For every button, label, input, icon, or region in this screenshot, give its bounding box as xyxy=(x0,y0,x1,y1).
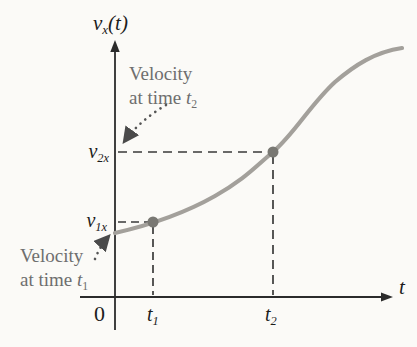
annotation-velocity-t1-var-sub: 1 xyxy=(82,280,88,293)
y-axis-title-base: v xyxy=(93,11,102,35)
y-axis-arrowhead-icon xyxy=(110,40,119,52)
leader-arrow-t1-icon xyxy=(95,236,109,259)
y-tick-v2x-sub: 2x xyxy=(97,151,109,165)
annotation-velocity-t1: Velocity at time t1 xyxy=(20,244,88,293)
annotation-velocity-t2-line1: Velocity xyxy=(129,63,192,84)
x-tick-t2-sub: 2 xyxy=(271,314,277,328)
x-tick-origin: 0 xyxy=(94,303,105,325)
x-axis-label-var: t xyxy=(399,275,405,299)
x-axis-label: t xyxy=(399,277,405,298)
data-point-t2 xyxy=(268,147,279,158)
x-axis-arrowhead-icon xyxy=(381,292,393,301)
y-tick-v2x: v2x xyxy=(76,141,109,161)
y-tick-v2x-base: v xyxy=(88,140,97,162)
x-tick-t1: t1 xyxy=(147,304,159,324)
y-tick-v1x: v1x xyxy=(74,210,107,230)
x-tick-t2: t2 xyxy=(265,304,277,324)
y-tick-v1x-base: v xyxy=(86,209,95,231)
annotation-velocity-t2-line2: at time xyxy=(129,87,186,108)
graph-plot-area xyxy=(0,0,417,347)
y-axis-title-suffix: (t) xyxy=(108,11,128,35)
y-tick-v1x-sub: 1x xyxy=(95,220,107,234)
annotation-velocity-t1-line2: at time xyxy=(20,269,77,290)
annotation-velocity-t1-line1: Velocity xyxy=(20,245,83,266)
y-axis-title: vx(t) xyxy=(93,13,128,34)
data-point-t1 xyxy=(148,217,159,228)
velocity-time-graph: vx(t) Velocity at time t2 Velocity at ti… xyxy=(0,0,417,347)
x-tick-t1-sub: 1 xyxy=(153,314,159,328)
annotation-velocity-t2-var-sub: 2 xyxy=(191,98,197,111)
annotation-velocity-t2: Velocity at time t2 xyxy=(129,62,197,111)
